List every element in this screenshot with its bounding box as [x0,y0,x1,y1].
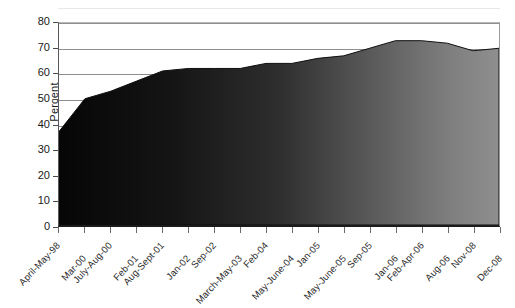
x-tick-mark [344,227,345,233]
x-tick-label: Aug-Sept-01 [78,240,167,308]
x-tick-label: Jan-05 [234,240,323,308]
x-tick-mark [240,227,241,233]
y-tick-label: 40 [6,118,50,130]
y-tick-label: 50 [6,92,50,104]
y-tick-label: 80 [6,15,50,27]
x-tick-label: May-June-04 [208,253,297,308]
x-tick-mark [474,227,475,233]
y-tick-label: 70 [6,41,50,53]
x-tick-label: Feb-Apr-06 [338,240,427,308]
y-tick-label: 60 [6,66,50,78]
x-tick-label: April-May-98 [0,240,62,308]
x-tick-mark [318,227,319,233]
x-tick-mark [58,227,59,233]
x-tick-mark [448,227,449,233]
area-series-shape [59,23,499,225]
x-tick-label: Aug-06 [364,253,453,308]
x-tick-mark [500,227,501,233]
x-tick-label: Jan-06 [312,253,401,308]
x-tick-label: Mar-00 [0,253,88,308]
x-tick-mark [84,227,85,233]
x-tick-mark [188,227,189,233]
x-tick-mark [214,227,215,233]
x-tick-mark [422,227,423,233]
y-tick-label: 30 [6,143,50,155]
x-tick-label: May-June-05 [260,253,349,308]
x-tick-label: Dec-08 [416,253,505,308]
x-tick-label: Jan-02 [104,253,193,308]
x-tick-label: Sep-02 [130,240,219,308]
y-tick-label: 10 [6,194,50,206]
x-tick-mark [370,227,371,233]
x-tick-label: Sep-05 [286,240,375,308]
x-tick-label: March-May-03 [156,253,245,308]
x-tick-label: July-Aug-00 [26,240,115,308]
x-tick-label: Nov-08 [390,240,479,308]
x-tick-label: Feb-04 [182,240,271,308]
x-tick-label: Feb-01 [52,253,141,308]
y-tick-label: 20 [6,169,50,181]
chart-top-rule [58,8,500,9]
x-tick-mark [136,227,137,233]
x-tick-mark [292,227,293,233]
x-tick-mark [396,227,397,233]
x-tick-mark [266,227,267,233]
x-tick-mark [162,227,163,233]
plot-area [58,22,500,227]
x-tick-mark [110,227,111,233]
y-tick-label: 0 [6,220,50,232]
